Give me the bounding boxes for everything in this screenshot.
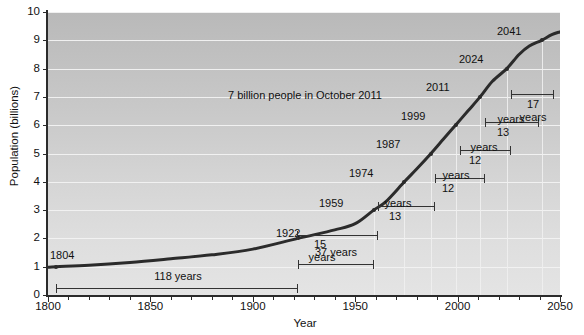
span-label-12a-number: 12: [433, 182, 463, 194]
span-label-13b-number: 13: [488, 126, 518, 138]
y-tick-1: [43, 267, 48, 268]
x-tick-1900: [253, 297, 254, 302]
y-tick-4: [43, 182, 48, 183]
span-label-17-number: 17: [518, 98, 548, 110]
x-tick-1840: [130, 297, 131, 300]
x-tick-1870: [191, 297, 192, 300]
x-tick-1980: [417, 297, 418, 300]
span-label-13-number: 13: [380, 210, 410, 222]
y-tick-8: [43, 69, 48, 70]
callout-7-billion: 7 billion people in October 2011: [228, 90, 382, 101]
x-tick-1990: [437, 297, 438, 300]
span-label-12b-unit: years: [464, 141, 504, 153]
y-tick-label-9: 9: [0, 34, 40, 45]
x-tick-2050: [560, 297, 561, 302]
y-tick-label-7: 7: [0, 91, 40, 102]
y-tick-label-10: 10: [0, 6, 40, 17]
y-tick-label-8: 8: [0, 63, 40, 74]
x-axis-title: Year: [275, 317, 335, 329]
x-tick-1960: [376, 297, 377, 300]
population-growth-chart: 7 billion people in October 2011 1804 19…: [0, 0, 584, 335]
x-tick-1820: [89, 297, 90, 300]
y-tick-5: [43, 154, 48, 155]
marker-2041: [540, 38, 544, 42]
milestone-label-1999: 1999: [401, 111, 425, 122]
x-tick-1880: [212, 297, 213, 300]
x-tick-1920: [294, 297, 295, 300]
x-tick-1850: [150, 297, 151, 302]
milestone-label-2024: 2024: [459, 54, 483, 65]
y-tick-0: [43, 295, 48, 296]
y-tick-10: [43, 12, 48, 13]
milestone-label-2011: 2011: [426, 82, 450, 93]
y-tick-6: [43, 125, 48, 126]
y-tick-label-6: 6: [0, 119, 40, 130]
span-label-12b-number: 12: [460, 154, 490, 166]
x-axis-line: [46, 295, 562, 297]
x-tick-1890: [232, 297, 233, 300]
y-tick-9: [43, 40, 48, 41]
milestone-label-1974: 1974: [349, 168, 373, 179]
y-tick-2: [43, 238, 48, 239]
plot-area: 7 billion people in October 2011 1804 19…: [48, 12, 560, 295]
y-tick-label-4: 4: [0, 176, 40, 187]
x-tick-2000: [458, 297, 459, 302]
span-label-118-years: 118 years: [138, 270, 218, 282]
x-tick-1970: [396, 297, 397, 300]
milestone-label-2041: 2041: [497, 26, 521, 37]
y-tick-3: [43, 210, 48, 211]
span-label-15-number: 15: [302, 238, 338, 250]
x-tick-1830: [109, 297, 110, 300]
y-axis-title: Population (billions): [8, 6, 20, 266]
x-tick-1950: [355, 297, 356, 302]
x-tick-1810: [68, 297, 69, 300]
y-tick-label-3: 3: [0, 204, 40, 215]
y-tick-label-0: 0: [0, 289, 40, 300]
span-label-17-unit: years: [513, 111, 553, 123]
y-tick-label-5: 5: [0, 148, 40, 159]
x-tick-1800: [48, 297, 49, 302]
x-tick-2030: [519, 297, 520, 300]
milestone-label-1804: 1804: [50, 250, 74, 261]
marker-2024: [505, 67, 509, 71]
span-label-13-unit: years: [378, 197, 418, 209]
marker-1804: [54, 265, 58, 269]
x-tick-label-2050: 2050: [530, 300, 584, 312]
x-tick-1940: [335, 297, 336, 300]
y-tick-label-2: 2: [0, 232, 40, 243]
x-tick-1860: [171, 297, 172, 300]
span-label-12a-unit: years: [436, 169, 476, 181]
bracket-118-years: [56, 284, 298, 293]
marker-1959: [372, 208, 376, 212]
x-tick-2020: [499, 297, 500, 300]
milestone-label-1987: 1987: [376, 139, 400, 150]
x-tick-2040: [540, 297, 541, 300]
x-tick-2010: [478, 297, 479, 300]
y-tick-7: [43, 97, 48, 98]
marker-1987: [429, 152, 433, 156]
milestone-label-1959: 1959: [319, 198, 343, 209]
y-tick-label-1: 1: [0, 261, 40, 272]
x-tick-1930: [314, 297, 315, 300]
span-label-15-unit: years: [302, 251, 342, 263]
marker-2011: [478, 95, 482, 99]
marker-1999: [454, 123, 458, 127]
x-tick-1910: [273, 297, 274, 300]
